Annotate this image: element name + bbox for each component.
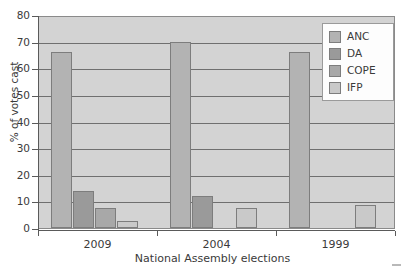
y-tick-10	[32, 202, 39, 203]
bar-da-2009	[73, 191, 94, 228]
y-tick-50	[32, 96, 39, 97]
y-tick-60	[32, 69, 39, 70]
x-tick-1	[157, 231, 158, 236]
x-tick-2	[276, 231, 277, 236]
legend-swatch-anc	[329, 31, 341, 43]
bar-ifp-1999	[355, 205, 376, 228]
y-tick-label-0: 0	[0, 223, 30, 233]
x-axis-line	[38, 230, 395, 231]
y-tick-40	[32, 123, 39, 124]
x-category-1999: 1999	[276, 238, 395, 251]
legend-swatch-cope	[329, 65, 341, 77]
bar-anc-2009	[51, 52, 72, 228]
page-edge-artifact	[392, 264, 401, 266]
legend-item-anc: ANC	[329, 29, 386, 44]
legend-label-anc: ANC	[347, 31, 369, 42]
bar-ifp-2004	[236, 208, 257, 228]
y-tick-label-80: 80	[0, 10, 30, 20]
legend-item-da: DA	[329, 46, 386, 61]
y-tick-70	[32, 43, 39, 44]
legend-label-cope: COPE	[347, 65, 376, 76]
chart-legend: ANC DA COPE IFP	[322, 23, 394, 101]
y-tick-0	[32, 229, 39, 230]
y-tick-30	[32, 149, 39, 150]
legend-label-ifp: IFP	[347, 82, 362, 93]
bar-anc-2004	[170, 42, 191, 228]
x-tick-edge-1	[395, 231, 396, 236]
x-axis-title: National Assembly elections	[0, 252, 401, 265]
legend-swatch-ifp	[329, 82, 341, 94]
y-tick-label-10: 10	[0, 196, 30, 206]
legend-item-ifp: IFP	[329, 80, 386, 95]
legend-label-da: DA	[347, 48, 362, 59]
x-tick-edge-0	[38, 231, 39, 236]
y-axis-title: % of votes cast	[8, 32, 20, 172]
bar-cope-2009	[95, 208, 116, 228]
bar-group-2004	[158, 17, 277, 228]
x-category-2009: 2009	[38, 238, 157, 251]
bar-ifp-2009	[117, 221, 138, 228]
x-category-2004: 2004	[157, 238, 276, 251]
y-tick-80	[32, 16, 39, 17]
chart-figure: 01020304050607080 % of votes cast 200920…	[0, 0, 401, 272]
legend-swatch-da	[329, 48, 341, 60]
bar-group-2009	[39, 17, 158, 228]
bar-da-2004	[192, 196, 213, 228]
y-tick-20	[32, 176, 39, 177]
bar-anc-1999	[289, 52, 310, 228]
legend-item-cope: COPE	[329, 63, 386, 78]
